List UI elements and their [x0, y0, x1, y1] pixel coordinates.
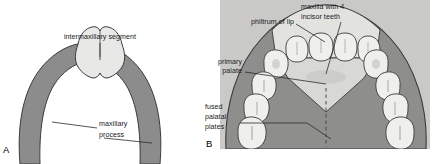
label-maxilla-incisor-line1-text: maxilla with 4: [301, 3, 344, 11]
right-posterior-tooth-1-cusp: [372, 59, 380, 69]
label-fused-palatal-plates-line3: plates: [205, 123, 224, 132]
left-posterior-tooth-1-cusp: [272, 59, 280, 69]
panel-letter-b: B: [206, 138, 212, 149]
label-fused-palatal-plates-line3-text: plates: [205, 123, 224, 131]
label-primary-palate-line1: primary: [200, 58, 242, 67]
panel-letter-a: A: [3, 144, 9, 155]
anatomical-figure: intermaxillary segment maxillary process…: [0, 0, 434, 164]
label-maxillary-process-line1-text: maxillary: [99, 120, 127, 128]
label-maxillary-process-line2: process: [99, 131, 124, 140]
label-maxillary-process-line2-text: process: [99, 131, 124, 139]
label-primary-palate-line2: palate: [200, 67, 242, 76]
panel-letter-a-text: A: [3, 144, 9, 155]
label-fused-palatal-plates-line2-text: palatal: [205, 113, 226, 121]
label-maxilla-incisor-line1: maxilla with 4: [301, 3, 344, 12]
label-fused-palatal-plates-line1: fused: [205, 103, 223, 112]
label-maxillary-process-line1: maxillary: [99, 120, 127, 129]
label-fused-palatal-plates-line1-text: fused: [205, 103, 223, 111]
panel-b: maxilla with 4 incisor teeth philtrum of…: [200, 0, 434, 164]
panel-a: intermaxillary segment maxillary process…: [0, 0, 200, 164]
label-maxilla-incisor-line2: incisor teeth: [301, 13, 340, 22]
label-philtrum-of-lip-text: philtrum of lip: [251, 18, 294, 26]
leader-maxillary-process-left: [52, 122, 97, 128]
label-maxilla-incisor-line2-text: incisor teeth: [301, 13, 340, 21]
label-primary-palate-line1-text: primary: [218, 58, 242, 66]
label-intermaxillary-segment: intermaxillary segment: [22, 33, 178, 42]
label-primary-palate-line2-text: palate: [222, 67, 242, 75]
label-philtrum-of-lip: philtrum of lip: [200, 18, 294, 27]
label-fused-palatal-plates-line2: palatal: [205, 113, 226, 122]
panel-letter-b-text: B: [206, 138, 212, 149]
label-intermaxillary-segment-text: intermaxillary segment: [64, 33, 136, 41]
